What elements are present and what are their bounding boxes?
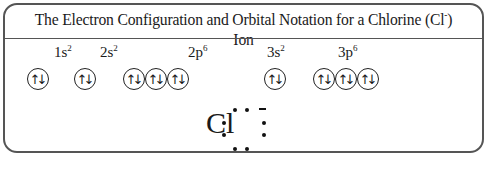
sublevel-label-2p: 2p6 <box>188 43 208 61</box>
diagram-frame: The Electron Configuration and Orbital N… <box>3 3 484 153</box>
orbital-2p-1: ↑↓ <box>123 68 145 90</box>
electron-dot <box>262 121 266 125</box>
sublevel-label-2s: 2s2 <box>100 43 118 61</box>
orbital-1s: ↑↓ <box>27 68 49 90</box>
orbital-2p-2: ↑↓ <box>145 68 167 90</box>
sublevel-label-3s: 3s2 <box>267 43 285 61</box>
electron-dot <box>245 108 249 112</box>
sublevel-label-1s: 1s2 <box>54 43 72 61</box>
electron-dot <box>222 121 226 125</box>
electron-dot <box>222 133 226 137</box>
electron-dot <box>245 147 249 151</box>
electron-dot <box>233 147 237 151</box>
title-divider <box>5 38 482 39</box>
diagram-title: The Electron Configuration and Orbital N… <box>24 9 463 50</box>
ion-charge <box>259 108 266 110</box>
lewis-symbol: Cl <box>206 106 234 140</box>
electron-dot <box>233 108 237 112</box>
electron-dot <box>262 133 266 137</box>
orbital-3p-1: ↑↓ <box>313 68 335 90</box>
orbital-3s: ↑↓ <box>264 68 286 90</box>
orbital-3p-2: ↑↓ <box>335 68 357 90</box>
orbital-2p-3: ↑↓ <box>167 68 189 90</box>
orbital-3p-3: ↑↓ <box>357 68 379 90</box>
orbital-2s: ↑↓ <box>74 68 96 90</box>
sublevel-label-3p: 3p6 <box>338 43 358 61</box>
